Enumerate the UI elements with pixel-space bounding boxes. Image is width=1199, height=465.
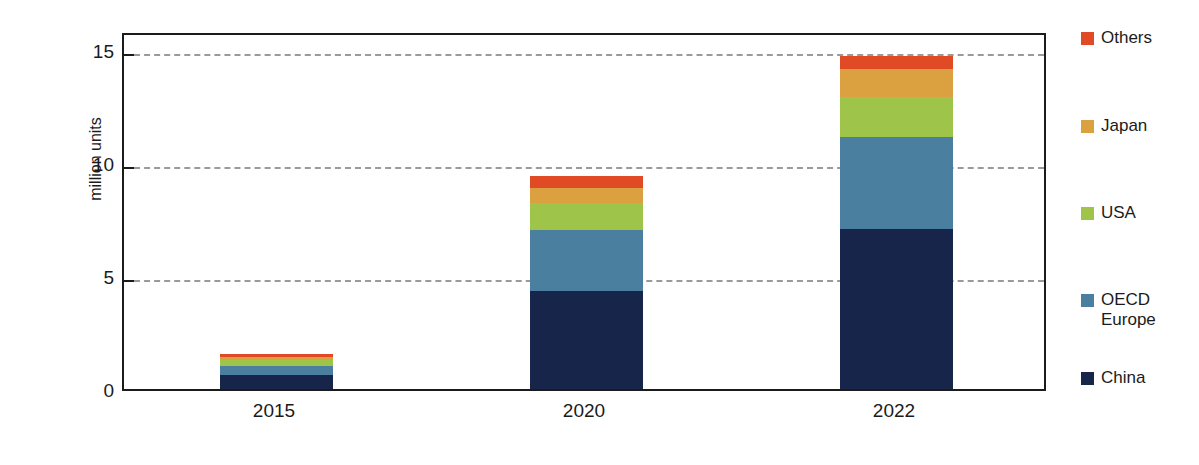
bar-segment-china-2015 bbox=[220, 375, 333, 389]
y-tickmark-5 bbox=[123, 280, 134, 282]
plot-area bbox=[122, 33, 1046, 391]
bar-segment-usa-2022 bbox=[840, 97, 953, 137]
bar-2015 bbox=[220, 354, 333, 389]
legend-label: Others bbox=[1101, 28, 1152, 48]
y-tickmark-10 bbox=[123, 167, 134, 169]
bar-segment-china-2020 bbox=[530, 291, 643, 389]
bar-segment-oecd-europe-2022 bbox=[840, 137, 953, 229]
legend-item-china[interactable]: China bbox=[1081, 368, 1145, 388]
bar-segment-usa-2020 bbox=[530, 203, 643, 230]
legend-item-oecd-europe[interactable]: OECD Europe bbox=[1081, 290, 1156, 329]
x-tick-label-2015: 2015 bbox=[253, 400, 295, 422]
x-tick-label-2022: 2022 bbox=[873, 400, 915, 422]
bar-segment-others-2020 bbox=[530, 176, 643, 187]
y-tick-label-5: 5 bbox=[68, 268, 114, 287]
legend-item-usa[interactable]: USA bbox=[1081, 203, 1136, 223]
bar-2022 bbox=[840, 56, 953, 389]
legend-label: Japan bbox=[1101, 116, 1147, 136]
y-tick-label-10: 10 bbox=[68, 155, 114, 174]
bar-segment-japan-2020 bbox=[530, 188, 643, 204]
bar-segment-oecd-europe-2020 bbox=[530, 230, 643, 290]
bar-segment-others-2022 bbox=[840, 56, 953, 69]
bar-segment-oecd-europe-2015 bbox=[220, 366, 333, 375]
y-axis-tick-labels: 15 10 5 0 bbox=[54, 0, 114, 465]
legend-label: China bbox=[1101, 368, 1145, 388]
y-tickmark-15 bbox=[123, 54, 134, 56]
legend-swatch-icon bbox=[1081, 32, 1094, 45]
y-tick-label-15: 15 bbox=[68, 42, 114, 61]
bar-segment-china-2022 bbox=[840, 229, 953, 389]
legend-swatch-icon bbox=[1081, 120, 1094, 133]
bar-segment-japan-2022 bbox=[840, 69, 953, 97]
legend-item-japan[interactable]: Japan bbox=[1081, 116, 1147, 136]
legend-item-others[interactable]: Others bbox=[1081, 28, 1152, 48]
legend-swatch-icon bbox=[1081, 207, 1094, 220]
y-tick-label-0: 0 bbox=[68, 381, 114, 400]
legend-label: OECD Europe bbox=[1101, 290, 1156, 329]
x-tick-label-2020: 2020 bbox=[563, 400, 605, 422]
legend-swatch-icon bbox=[1081, 294, 1094, 307]
legend-label: USA bbox=[1101, 203, 1136, 223]
bar-2020 bbox=[530, 176, 643, 389]
stacked-bar-chart: million units 15 10 5 0 2015 2020 2022 O… bbox=[0, 0, 1199, 465]
legend-swatch-icon bbox=[1081, 372, 1094, 385]
